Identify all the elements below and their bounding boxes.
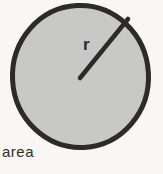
radius-label: r [83, 35, 90, 54]
area-label: area [2, 143, 34, 160]
diagram-canvas: r area [0, 0, 163, 174]
circle-area-diagram: r area [0, 0, 163, 174]
